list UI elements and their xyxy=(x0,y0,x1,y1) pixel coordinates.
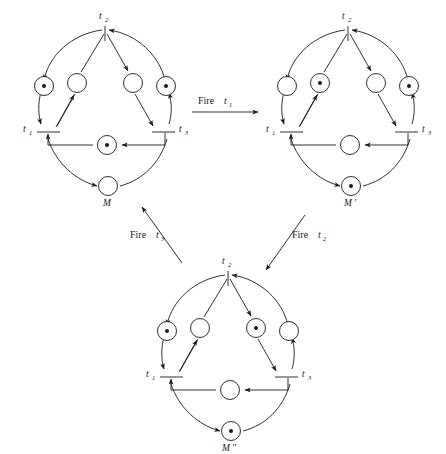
net-m-double-prime: t 2 t 1 t 3 M ′′ xyxy=(146,256,312,453)
arc-outer-right-to-t2 xyxy=(232,275,288,325)
label-t3: t xyxy=(179,124,182,134)
arrow-t3-to-center-place xyxy=(245,378,288,390)
token-outer-right xyxy=(164,84,168,88)
place-outer-left xyxy=(278,77,297,96)
place-inner-right xyxy=(124,74,143,93)
net-m: t 2 t 1 t 3 M xyxy=(23,11,189,208)
arrow-t2-to-inner-right xyxy=(230,279,251,316)
arrow-t2-to-inner-left xyxy=(324,34,347,72)
arrow-t2-to-inner-left xyxy=(81,34,104,72)
arrow-center-place-to-t1 xyxy=(291,134,336,145)
arrow-inner-right-to-t3 xyxy=(378,94,396,126)
place-center xyxy=(221,381,240,400)
token-inner-right xyxy=(254,326,258,330)
flow-arrow-fire-t3: Fire t 3 xyxy=(130,207,182,263)
marking-label-m-prime: ′ xyxy=(354,198,357,208)
arc-t2-to-outer-left xyxy=(167,275,225,325)
token-bottom xyxy=(349,184,353,188)
arrow-center-place-to-t1 xyxy=(48,134,93,145)
arc-t3-to-outer-right xyxy=(169,93,171,124)
arrow-center-place-to-t1 xyxy=(171,379,216,390)
label-t2-subscript: 2 xyxy=(228,261,232,268)
arc-outer-right-to-t2 xyxy=(109,30,165,80)
label-t2: t xyxy=(342,11,345,21)
label-t2-subscript: 2 xyxy=(348,16,352,23)
arc-t1-to-bottom xyxy=(48,139,97,186)
arrow-t1-to-inner-left xyxy=(299,95,317,127)
label-t3: t xyxy=(302,369,305,379)
arrow-t2-to-inner-right xyxy=(107,34,128,71)
arrow-t3-to-center-place xyxy=(365,133,408,145)
place-center xyxy=(341,136,360,155)
net-m-prime: t 2 t 1 t 3 M ′ xyxy=(266,11,432,208)
fire-t2-subscript: 2 xyxy=(323,235,327,242)
label-t1-subscript: 1 xyxy=(152,374,155,381)
label-t1-subscript: 1 xyxy=(29,129,32,136)
fire-t1-var: t xyxy=(224,95,227,106)
fire-t3-var: t xyxy=(156,229,159,240)
arc-bottom-to-t3 xyxy=(363,139,410,186)
label-t3-subscript: 3 xyxy=(307,374,312,381)
arc-bottom-to-t3 xyxy=(120,139,167,186)
arc-outer-left-to-t1 xyxy=(282,92,284,124)
token-outer-left xyxy=(165,329,169,333)
label-t1-subscript: 1 xyxy=(272,129,275,136)
arrow-t2-to-inner-right xyxy=(350,34,371,71)
place-inner-right xyxy=(367,74,386,93)
arrow-t1-to-inner-left xyxy=(56,95,74,127)
label-t1: t xyxy=(266,124,269,134)
petri-net-figure: t 2 t 1 t 3 M t 2 xyxy=(0,0,446,454)
arc-t3-to-outer-right xyxy=(412,93,414,124)
arc-t2-to-outer-left xyxy=(44,30,102,80)
arc-t1-to-bottom xyxy=(291,139,340,186)
label-t3: t xyxy=(422,124,425,134)
label-t3-subscript: 3 xyxy=(184,129,189,136)
marking-label-m-prime: ′′ xyxy=(232,443,237,453)
arc-bottom-to-t3 xyxy=(243,384,290,431)
place-inner-left xyxy=(68,74,87,93)
arrow-inner-right-to-t3 xyxy=(258,339,276,371)
arrow-inner-right-to-t3 xyxy=(135,94,153,126)
marking-label-m: M xyxy=(102,198,112,208)
label-t1: t xyxy=(146,369,149,379)
fire-t2-var: t xyxy=(318,229,321,240)
arc-t1-to-bottom xyxy=(171,384,220,431)
label-t2: t xyxy=(222,256,225,266)
fire-t1-word: Fire xyxy=(198,95,215,106)
token-center xyxy=(105,143,109,147)
label-t2-subscript: 2 xyxy=(105,16,109,23)
marking-label-m: M xyxy=(343,198,353,208)
label-t2: t xyxy=(99,11,102,21)
flow-arrow-fire-t1: Fire t 1 xyxy=(192,95,258,112)
arc-outer-left-to-t1 xyxy=(39,92,41,124)
token-outer-right xyxy=(407,84,411,88)
place-outer-right xyxy=(280,322,299,341)
flow-arrow-fire-t2: Fire t 2 xyxy=(266,215,327,270)
arc-t2-to-outer-left xyxy=(287,30,345,80)
token-inner-left xyxy=(318,81,322,85)
fire-t3-word: Fire xyxy=(130,229,147,240)
arc-outer-right-to-t2 xyxy=(352,30,408,80)
fire-t2-word: Fire xyxy=(292,229,309,240)
fire-t2-line xyxy=(266,215,305,270)
token-outer-left xyxy=(42,84,46,88)
arc-t3-to-outer-right xyxy=(292,338,294,369)
label-t3-subscript: 3 xyxy=(427,129,432,136)
arrow-t2-to-inner-left xyxy=(204,279,227,317)
marking-label-m: M xyxy=(221,443,231,453)
arrow-t3-to-center-place xyxy=(122,133,165,145)
figure-canvas: t 2 t 1 t 3 M t 2 xyxy=(0,0,446,454)
place-inner-left xyxy=(191,319,210,338)
arc-outer-left-to-t1 xyxy=(162,337,164,369)
label-t1: t xyxy=(23,124,26,134)
arrow-t1-to-inner-left xyxy=(179,340,197,372)
token-bottom xyxy=(229,429,233,433)
fire-t1-subscript: 1 xyxy=(229,101,232,108)
place-bottom xyxy=(99,177,118,196)
